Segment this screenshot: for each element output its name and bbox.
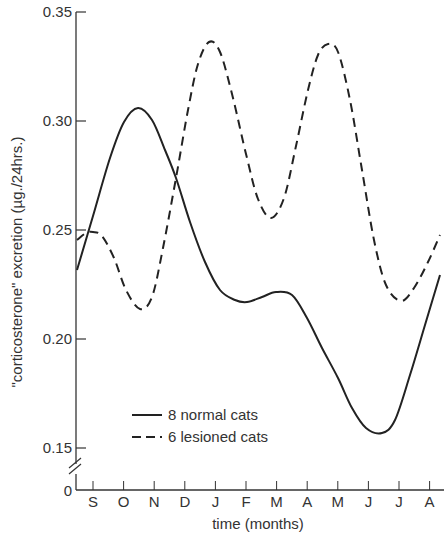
x-tick-label: A xyxy=(302,493,312,510)
y-tick-0.30: 0.30 xyxy=(43,112,72,129)
legend-normal-label: 8 normal cats xyxy=(168,406,258,423)
series-normal-cats-line xyxy=(77,108,440,433)
y-tick-0.15: 0.15 xyxy=(43,439,72,456)
legend-lesioned-label: 6 lesioned cats xyxy=(168,428,268,445)
x-tick-label: J xyxy=(212,493,220,510)
x-ticks xyxy=(93,481,430,490)
y-tick-0.35: 0.35 xyxy=(43,3,72,20)
y-tick-labels: 0.35 0.30 0.25 0.20 0.15 0 xyxy=(43,3,72,499)
x-tick-label: D xyxy=(179,493,190,510)
x-axis-title: time (months) xyxy=(212,515,304,532)
x-tick-label: S xyxy=(88,493,98,510)
y-tick-0: 0 xyxy=(64,482,72,499)
x-tick-label: O xyxy=(118,493,130,510)
line-chart: 0.35 0.30 0.25 0.20 0.15 0 SONDJFMAMJJA … xyxy=(0,0,446,540)
y-ticks xyxy=(76,12,86,448)
y-tick-0.25: 0.25 xyxy=(43,221,72,238)
x-tick-label: M xyxy=(332,493,345,510)
x-tick-labels: SONDJFMAMJJA xyxy=(88,493,435,510)
x-tick-label: A xyxy=(425,493,435,510)
axis-break-icon xyxy=(69,458,81,474)
series-lesioned-cats-line xyxy=(77,41,440,309)
x-tick-label: M xyxy=(270,493,283,510)
x-tick-label: N xyxy=(149,493,160,510)
y-tick-0.20: 0.20 xyxy=(43,330,72,347)
legend: 8 normal cats 6 lesioned cats xyxy=(132,406,268,445)
x-tick-label: J xyxy=(365,493,373,510)
y-axis-title: "corticosterone" excretion (µg./24hrs.) xyxy=(8,136,25,387)
x-tick-label: F xyxy=(241,493,250,510)
x-tick-label: J xyxy=(395,493,403,510)
